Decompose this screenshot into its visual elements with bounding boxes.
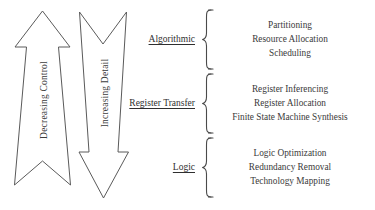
task-item: Resource Allocation xyxy=(205,32,375,46)
level-label-algorithmic: Algorithmic xyxy=(120,34,195,44)
task-item: Register Allocation xyxy=(205,96,375,110)
task-item: Logic Optimization xyxy=(205,146,375,160)
level-label-register-transfer-text: Register Transfer xyxy=(129,98,195,108)
decreasing-control-label-text: Decreasing Control xyxy=(39,50,49,150)
design-abstraction-levels-diagram: Decreasing Control Increasing Detail Alg… xyxy=(0,0,375,210)
task-item: Redundancy Removal xyxy=(205,160,375,174)
increasing-detail-label-text: Increasing Detail xyxy=(100,43,110,143)
task-group-algorithmic: Partitioning Resource Allocation Schedul… xyxy=(205,18,375,60)
task-group-register-transfer: Register Inferencing Register Allocation… xyxy=(205,82,375,124)
increasing-detail-label: Increasing Detail xyxy=(55,88,155,98)
level-label-algorithmic-text: Algorithmic xyxy=(149,34,195,44)
task-item: Register Inferencing xyxy=(205,82,375,96)
task-group-logic: Logic Optimization Redundancy Removal Te… xyxy=(205,146,375,188)
level-label-logic-text: Logic xyxy=(173,162,195,172)
level-label-register-transfer: Register Transfer xyxy=(110,98,195,108)
task-item: Finite State Machine Synthesis xyxy=(205,110,375,124)
task-item: Partitioning xyxy=(205,18,375,32)
task-item: Technology Mapping xyxy=(205,174,375,188)
level-label-logic: Logic xyxy=(120,162,195,172)
task-item: Scheduling xyxy=(205,46,375,60)
